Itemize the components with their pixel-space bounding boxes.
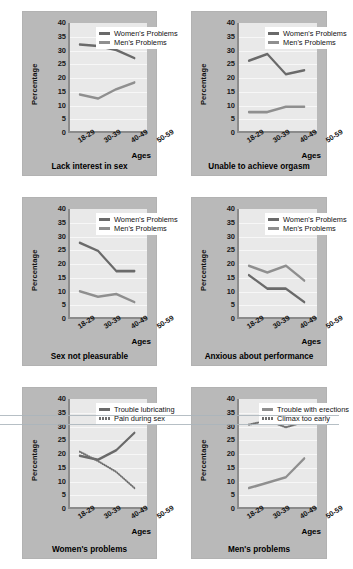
x-axis-label: Ages (301, 151, 321, 160)
y-tick-label: 0 (62, 129, 66, 137)
y-tick-label: 30 (227, 233, 235, 241)
chart-cell: 4035302520151050PercentageWomen's Proble… (0, 0, 169, 186)
chart-panel: 4035302520151050PercentageWomen's Proble… (22, 11, 157, 176)
y-axis-ticks: 4035302520151050 (211, 201, 235, 319)
y-tick-label: 5 (62, 115, 66, 123)
y-axis-ticks: 4035302520151050 (42, 15, 66, 133)
legend-label: Trouble lubricating (114, 405, 175, 414)
y-tick-label: 35 (227, 409, 235, 417)
series-line (80, 243, 135, 271)
chart-cell: 4035302520151050PercentageTrouble with e… (169, 376, 339, 569)
chart-title: Women's problems (22, 545, 157, 554)
y-tick-label: 40 (58, 205, 66, 213)
chart-cell: 4035302520151050PercentageWomen's Proble… (169, 0, 339, 186)
legend-item: Men's Problems (268, 38, 347, 47)
plot-area: Women's ProblemsMen's Problems (68, 209, 147, 319)
y-axis-label: Percentage (199, 440, 208, 481)
chart-panel: 4035302520151050PercentageWomen's Proble… (22, 197, 157, 366)
y-tick-label: 10 (58, 288, 66, 296)
legend-label: Men's Problems (283, 224, 336, 233)
chart-title: Sex not pleasurable (22, 352, 157, 361)
y-tick-label: 30 (227, 423, 235, 431)
legend-item: Pain during sex (99, 414, 175, 423)
y-tick-label: 0 (62, 315, 66, 323)
legend-swatch-icon (268, 218, 279, 221)
y-tick-label: 20 (58, 74, 66, 82)
plot-area: Women's ProblemsMen's Problems (68, 23, 147, 133)
y-tick-label: 40 (58, 19, 66, 27)
y-tick-label: 30 (58, 233, 66, 241)
chart-legend: Women's ProblemsMen's Problems (265, 27, 351, 49)
y-tick-label: 25 (58, 60, 66, 68)
legend-label: Men's Problems (114, 224, 167, 233)
y-axis-label: Percentage (30, 250, 39, 291)
y-tick-label: 20 (58, 260, 66, 268)
chart-legend: Trouble with erectionsClimax too early (259, 403, 353, 425)
series-line (249, 458, 305, 488)
legend-item: Women's Problems (268, 29, 347, 38)
chart-panel: 4035302520151050PercentageTrouble with e… (191, 387, 327, 559)
legend-swatch-icon (99, 41, 110, 44)
y-tick-label: 35 (58, 409, 66, 417)
legend-label: Men's Problems (114, 38, 167, 47)
legend-swatch-icon (99, 32, 110, 35)
legend-label: Trouble with erections (277, 405, 349, 414)
chart-cell: 4035302520151050PercentageWomen's Proble… (0, 186, 169, 376)
x-axis-ticks: 18-2930-3940-4950-59Ages (66, 137, 153, 163)
y-tick-label: 15 (58, 88, 66, 96)
series-line (249, 275, 305, 302)
y-tick-label: 0 (231, 315, 235, 323)
y-axis-label: Percentage (30, 440, 39, 481)
x-axis-label: Ages (301, 337, 321, 346)
legend-item: Trouble lubricating (99, 405, 175, 414)
y-tick-label: 15 (58, 274, 66, 282)
legend-item: Climax too early (262, 414, 349, 423)
legend-swatch-icon (262, 417, 273, 420)
y-tick-label: 10 (227, 478, 235, 486)
y-tick-label: 5 (231, 301, 235, 309)
x-axis-label: Ages (131, 527, 151, 536)
y-tick-label: 20 (227, 260, 235, 268)
y-tick-label: 40 (227, 19, 235, 27)
legend-label: Women's Problems (283, 29, 347, 38)
y-tick-label: 0 (62, 505, 66, 513)
plot-area: Trouble lubricatingPain during sex (68, 399, 147, 509)
legend-item: Men's Problems (268, 224, 347, 233)
y-tick-label: 40 (227, 395, 235, 403)
y-axis-ticks: 4035302520151050 (211, 15, 235, 133)
y-tick-label: 35 (58, 219, 66, 227)
x-axis-ticks: 18-2930-3940-4950-59Ages (235, 137, 323, 163)
y-axis-label: Percentage (199, 250, 208, 291)
y-tick-label: 25 (227, 436, 235, 444)
chart-title: Lack interest in sex (22, 162, 157, 171)
series-line (249, 107, 305, 112)
y-axis-ticks: 4035302520151050 (42, 201, 66, 319)
x-axis-ticks: 18-2930-3940-4950-59Ages (66, 513, 153, 539)
x-axis-ticks: 18-2930-3940-4950-59Ages (66, 323, 153, 349)
x-tick-label: 50-59 (324, 127, 344, 144)
legend-swatch-icon (268, 32, 279, 35)
legend-swatch-icon (268, 41, 279, 44)
legend-swatch-icon (99, 408, 110, 411)
x-axis-ticks: 18-2930-3940-4950-59Ages (235, 323, 323, 349)
y-axis-ticks: 4035302520151050 (42, 391, 66, 509)
legend-swatch-icon (99, 218, 110, 221)
chart-title: Unable to achieve orgasm (191, 162, 327, 171)
y-tick-label: 35 (227, 33, 235, 41)
y-axis-ticks: 4035302520151050 (211, 391, 235, 509)
y-tick-label: 10 (58, 478, 66, 486)
y-tick-label: 15 (227, 464, 235, 472)
legend-item: Trouble with erections (262, 405, 349, 414)
legend-swatch-icon (268, 227, 279, 230)
legend-label: Women's Problems (283, 215, 347, 224)
x-axis-label: Ages (131, 337, 151, 346)
chart-title: Men's problems (191, 545, 327, 554)
y-tick-label: 5 (62, 491, 66, 499)
y-tick-label: 0 (231, 129, 235, 137)
plot-area: Women's ProblemsMen's Problems (237, 209, 317, 319)
series-line (80, 82, 135, 98)
y-tick-label: 20 (227, 74, 235, 82)
x-axis-ticks: 18-2930-3940-4950-59Ages (235, 513, 323, 539)
